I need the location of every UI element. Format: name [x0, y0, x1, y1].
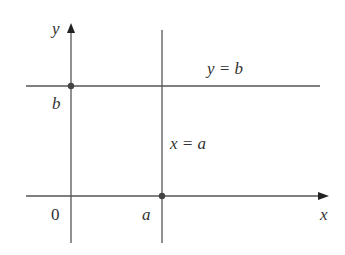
y-axis-arrow-icon — [67, 23, 75, 33]
y-equals-b-label: y = b — [207, 60, 243, 77]
b-axis-mark: b — [52, 95, 61, 112]
a-axis-mark: a — [142, 206, 151, 223]
y-axis-label: y — [52, 20, 60, 37]
origin-label: 0 — [51, 206, 60, 223]
x-equals-a-label: x = a — [170, 135, 206, 152]
x-axis-arrow-icon — [318, 192, 329, 200]
point-0-b — [68, 83, 74, 89]
x-axis-label: x — [320, 206, 328, 223]
point-a-0 — [159, 193, 165, 199]
